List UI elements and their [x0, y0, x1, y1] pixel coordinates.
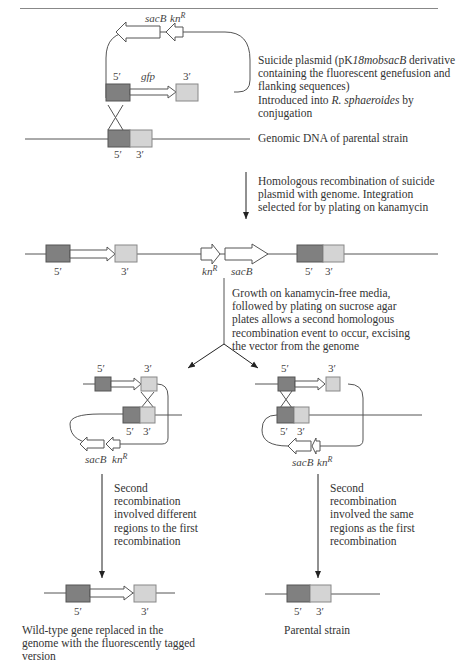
caption-left-branch: Second recombination involved different … — [114, 482, 198, 548]
svg-text:knR: knR — [202, 264, 217, 277]
svg-text:3′: 3′ — [136, 148, 144, 160]
svg-text:3′: 3′ — [325, 265, 333, 277]
gfp-arrow-icon — [130, 86, 176, 98]
svg-text:3′: 3′ — [297, 425, 305, 437]
svg-text:5′: 5′ — [281, 362, 289, 374]
sacB-arrow-icon — [225, 244, 268, 264]
genomic-5prime-box — [108, 130, 130, 147]
svg-text:3′: 3′ — [141, 605, 149, 617]
svg-text:knR: knR — [112, 452, 127, 465]
caption-step1: Homologous recombination of suicide plas… — [258, 175, 435, 215]
svg-text:5′: 5′ — [294, 605, 302, 617]
caption-genomic: Genomic DNA of parental strain — [258, 132, 408, 145]
svg-text:sacB: sacB — [85, 453, 107, 465]
knR-arrow-icon — [201, 244, 220, 264]
svg-text:5′: 5′ — [74, 605, 82, 617]
svg-text:5′: 5′ — [114, 148, 122, 160]
svg-text:3′: 3′ — [121, 265, 129, 277]
plasmid-5prime-box — [106, 84, 130, 101]
svg-text:5′: 5′ — [97, 362, 105, 374]
svg-text:gfp: gfp — [141, 70, 156, 82]
svg-text:5′: 5′ — [305, 265, 313, 277]
plasmid-knR-arrow-icon — [166, 23, 183, 41]
caption-right-result: Parental strain — [284, 624, 350, 637]
genomic-3prime-box — [130, 130, 152, 147]
svg-text:5′: 5′ — [126, 425, 134, 437]
label-knR: knR — [170, 11, 185, 24]
plasmid-sacB-arrow-icon — [116, 22, 160, 42]
svg-text:knR: knR — [317, 455, 332, 468]
svg-text:3′: 3′ — [316, 605, 324, 617]
caption-plasmid: Suicide plasmid (pK18mobsacB derivative … — [258, 54, 455, 120]
plasmid-3prime-box — [176, 84, 198, 101]
svg-text:3′: 3′ — [328, 362, 336, 374]
svg-text:5′: 5′ — [113, 70, 121, 82]
svg-text:3′: 3′ — [144, 362, 152, 374]
caption-left-result: Wild-type gene replaced in the genome wi… — [22, 624, 195, 664]
label-sacB: sacB — [145, 12, 167, 24]
svg-text:sacB: sacB — [292, 456, 314, 468]
caption-step2: Growth on kanamycin-free media, followed… — [232, 287, 410, 353]
svg-text:3′: 3′ — [143, 425, 151, 437]
caption-right-branch: Second recombination involved the same r… — [330, 482, 415, 548]
plasmid-backbone-right — [183, 32, 250, 92]
svg-text:5′: 5′ — [280, 425, 288, 437]
svg-text:3′: 3′ — [183, 70, 191, 82]
svg-text:5′: 5′ — [54, 265, 62, 277]
svg-text:sacB: sacB — [231, 265, 253, 277]
